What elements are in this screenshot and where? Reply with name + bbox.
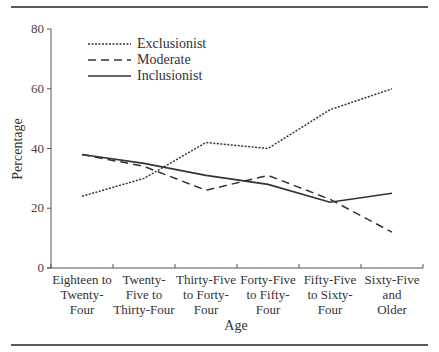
y-tick-label: 20 bbox=[31, 200, 44, 215]
x-tick-label: Four bbox=[194, 302, 219, 317]
series-lines bbox=[82, 89, 392, 232]
x-tick-label: to Sixty- bbox=[307, 287, 352, 302]
y-tick-label: 80 bbox=[31, 21, 44, 36]
x-tick-label: and bbox=[383, 287, 402, 302]
x-tick-label: Four bbox=[70, 302, 95, 317]
y-tick-label: 60 bbox=[31, 81, 44, 96]
x-tick-label: Four bbox=[256, 302, 281, 317]
y-axis-title: Percentage bbox=[10, 118, 25, 179]
legend-label-inclusionist: Inclusionist bbox=[137, 68, 202, 83]
x-tick-label: Five to bbox=[126, 287, 162, 302]
x-axis: Eighteen toTwenty-FourTwenty-Five toThir… bbox=[47, 264, 423, 317]
x-tick-label: to Fifty- bbox=[247, 287, 290, 302]
series-inclusionist bbox=[82, 155, 392, 203]
legend-label-exclusionist: Exclusionist bbox=[137, 36, 206, 51]
x-tick-label: to Forty- bbox=[183, 287, 229, 302]
y-axis: 020406080 bbox=[31, 21, 51, 275]
x-tick-label: Eighteen to bbox=[52, 272, 112, 287]
x-tick-label: Twenty- bbox=[122, 272, 165, 287]
x-tick-label: Thirty-Five bbox=[176, 272, 236, 287]
x-tick-label: Forty-Five bbox=[240, 272, 296, 287]
x-tick-label: Sixty-Five bbox=[365, 272, 420, 287]
x-tick-label: Four bbox=[318, 302, 343, 317]
x-tick-label: Older bbox=[377, 302, 407, 317]
legend: ExclusionistModerateInclusionist bbox=[88, 36, 206, 83]
legend-label-moderate: Moderate bbox=[137, 52, 191, 67]
line-chart: 020406080 Eighteen toTwenty-FourTwenty-F… bbox=[0, 0, 439, 352]
x-tick-label: Twenty- bbox=[60, 287, 103, 302]
y-tick-label: 40 bbox=[31, 141, 44, 156]
x-axis-title: Age bbox=[224, 318, 247, 333]
x-tick-label: Fifty-Five bbox=[304, 272, 357, 287]
x-tick-label: Thirty-Four bbox=[113, 302, 175, 317]
series-moderate bbox=[82, 155, 392, 233]
y-tick-label: 0 bbox=[38, 260, 45, 275]
